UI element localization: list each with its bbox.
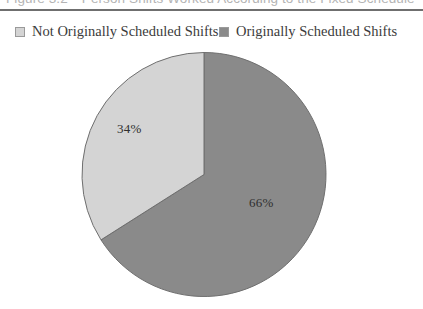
figure-number: Figure 3.2 [6,0,68,6]
legend-item-not-originally-scheduled[interactable]: Not Originally Scheduled Shifts [15,20,218,42]
chart-legend: Not Originally Scheduled Shifts Original… [0,20,423,42]
legend-swatch-icon [219,27,229,37]
figure-caption-text: Figure 3.2Person Shifts Worked According… [6,0,415,6]
pie-svg [0,42,423,309]
caption-divider [0,9,423,11]
legend-item-label: Not Originally Scheduled Shifts [32,24,218,39]
pie-slice-data-label: 66% [249,195,273,211]
figure-caption: Figure 3.2Person Shifts Worked According… [0,0,423,9]
legend-item-originally-scheduled[interactable]: Originally Scheduled Shifts [219,20,397,42]
figure-title: Person Shifts Worked According to the Fi… [82,0,415,6]
pie-slice-data-label: 34% [117,121,141,137]
figure-pie-chart: Figure 3.2Person Shifts Worked According… [0,0,423,309]
legend-item-label: Originally Scheduled Shifts [236,24,397,39]
legend-swatch-icon [15,27,25,37]
pie-plot-area: 34% 66% [0,42,423,309]
